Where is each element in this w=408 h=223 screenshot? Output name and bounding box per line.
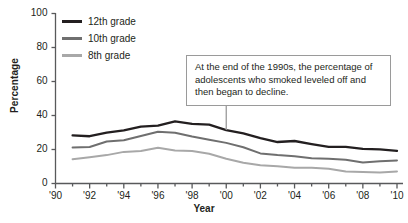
chart-container: 020406080100 '90'92'94'96'98'00'02'04'06…	[0, 0, 408, 223]
y-axis-tick-label: 40	[18, 109, 48, 120]
legend-item: 12th grade	[62, 14, 136, 29]
x-axis-tick-label: '02	[245, 190, 275, 201]
legend-color-swatch	[62, 54, 82, 57]
x-axis-tick-label: '90	[41, 190, 71, 201]
legend-label: 8th grade	[88, 50, 130, 61]
y-axis-tick-label: 100	[18, 7, 48, 18]
y-axis-title: Percentage	[9, 46, 20, 126]
y-axis-tick-label: 80	[18, 41, 48, 52]
legend-label: 12th grade	[88, 16, 136, 27]
x-axis-tick-label: '98	[177, 190, 207, 201]
y-axis-tick-label: 60	[18, 75, 48, 86]
y-axis-tick-label: 20	[18, 143, 48, 154]
legend-item: 10th grade	[62, 31, 136, 46]
x-axis-tick-label: '10	[382, 190, 408, 201]
x-axis-tick-label: '04	[280, 190, 310, 201]
legend-item: 8th grade	[62, 48, 136, 63]
chart-series	[73, 121, 397, 172]
legend-label: 10th grade	[88, 33, 136, 44]
x-axis-tick-label: '08	[348, 190, 378, 201]
x-axis-tick-label: '00	[211, 190, 241, 201]
chart-legend: 12th grade10th grade8th grade	[62, 14, 136, 65]
legend-color-swatch	[62, 20, 82, 23]
x-axis-tick-label: '92	[75, 190, 105, 201]
x-axis-tick-label: '96	[143, 190, 173, 201]
x-axis-title: Year	[0, 203, 408, 214]
x-axis-tick-label: '06	[314, 190, 344, 201]
annotation-callout-box: At the end of the 1990s, the percentage …	[186, 55, 391, 106]
y-axis-tick-label: 0	[18, 177, 48, 188]
annotation-text: At the end of the 1990s, the percentage …	[195, 61, 383, 99]
legend-color-swatch	[62, 37, 82, 40]
x-axis-tick-label: '94	[109, 190, 139, 201]
